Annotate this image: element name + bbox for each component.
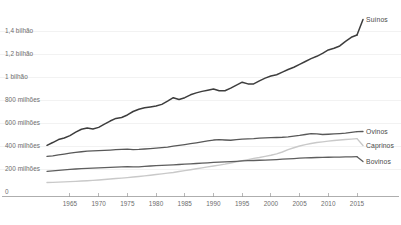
x-axis-tick-label: 1975 — [120, 200, 135, 207]
series-leader-caprinos — [357, 139, 363, 146]
x-axis-tick-label: 2010 — [321, 200, 336, 207]
x-axis-tick-label: 1970 — [91, 200, 106, 207]
series-line-caprinos — [47, 139, 357, 183]
y-axis-tick-label: 1 bilhão — [5, 73, 28, 80]
x-axis-tick-label: 1980 — [149, 200, 164, 207]
x-axis-tick-label: 2015 — [350, 200, 365, 207]
y-axis-tick-label: 200 milhões — [5, 165, 40, 172]
series-labels: SuínosOvinosCaprinosBovinos — [357, 16, 395, 165]
x-axis: 1965197019751980198519901995200020052010… — [2, 193, 399, 206]
series-leader-bovinos — [357, 157, 363, 162]
y-axis-tick-label: 1,2 bilhão — [5, 50, 34, 57]
series-label-caprinos: Caprinos — [366, 142, 395, 150]
y-axis-tick-label: 600 milhões — [5, 119, 40, 126]
series-label-bovinos: Bovinos — [366, 158, 391, 165]
y-axis-tick-label: 0 — [5, 188, 9, 195]
y-axis-labels: 1,4 bilhão1,2 bilhão1 bilhão800 milhões6… — [5, 27, 40, 195]
series-leader-suínos — [357, 20, 363, 36]
y-axis-tick-label: 800 milhões — [5, 96, 40, 103]
x-axis-tick-label: 1985 — [178, 200, 193, 207]
series-label-ovinos: Ovinos — [366, 128, 388, 135]
series-line-suínos — [47, 35, 357, 145]
x-axis-tick-label: 1990 — [206, 200, 221, 207]
x-axis-tick-label: 1965 — [63, 200, 78, 207]
x-axis-tick-label: 2005 — [292, 200, 307, 207]
chart-container: 1,4 bilhão1,2 bilhão1 bilhão800 milhões6… — [0, 0, 401, 225]
x-axis-tick-label: 1995 — [235, 200, 250, 207]
x-axis-tick-label: 2000 — [264, 200, 279, 207]
gridlines — [0, 31, 401, 169]
y-axis-tick-label: 1,4 bilhão — [5, 27, 34, 34]
series-label-suínos: Suínos — [366, 16, 388, 23]
y-axis-tick-label: 400 milhões — [5, 142, 40, 149]
data-series — [47, 35, 357, 183]
line-chart: 1,4 bilhão1,2 bilhão1 bilhão800 milhões6… — [0, 0, 401, 225]
